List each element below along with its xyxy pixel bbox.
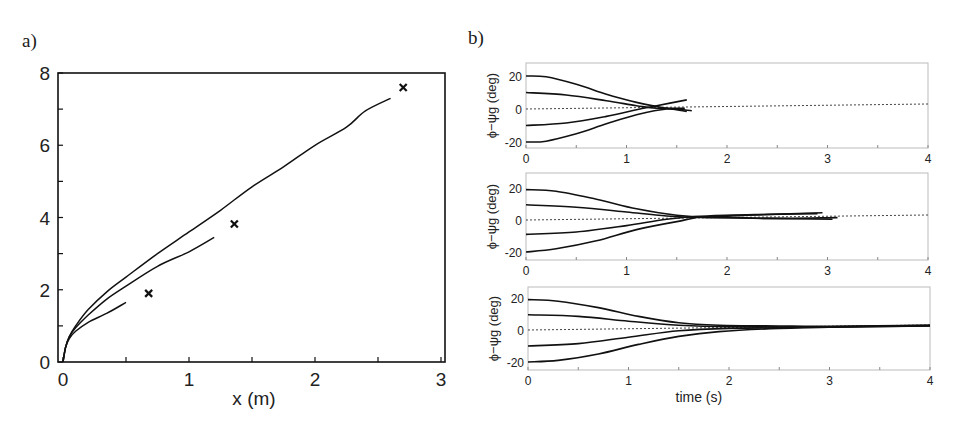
panel-b-subplot-1: 01234200-20ϕ−ψg (deg)	[484, 63, 932, 166]
y-tick-label: 20	[509, 182, 523, 196]
y-tick-label: -20	[507, 356, 525, 370]
y-axis-label: ϕ−ψg (deg)	[486, 296, 501, 361]
panel-a-frame	[58, 73, 445, 362]
y-tick-label: 0	[39, 352, 50, 373]
y-tick-label: 0	[515, 103, 522, 117]
y-tick-label: 8	[39, 63, 50, 84]
heading-error-line	[528, 300, 930, 327]
y-tick-label: 20	[511, 292, 525, 306]
x-tick-label: 0	[523, 152, 530, 166]
panel-b-subplot-3: 01234200-20ϕ−ψg (deg)time (s)	[486, 287, 934, 405]
x-axis-label: time (s)	[676, 389, 723, 405]
x-tick-label: 3	[436, 369, 447, 390]
zero-reference-line	[526, 104, 928, 109]
x-tick-label: 0	[523, 264, 530, 278]
x-tick-label: 3	[824, 264, 831, 278]
y-tick-label: 6	[39, 135, 50, 156]
y-tick-label: 20	[509, 70, 523, 84]
heading-error-line	[528, 326, 930, 362]
x-tick-label: 4	[927, 374, 934, 388]
heading-error-line	[526, 190, 823, 217]
heading-error-line	[526, 93, 685, 109]
x-tick-label: 1	[623, 264, 630, 278]
y-tick-label: -20	[505, 246, 523, 260]
x-tick-label: 2	[724, 152, 731, 166]
x-tick-label: 1	[184, 369, 195, 390]
x-tick-label: 0	[525, 374, 532, 388]
y-axis-label: ϕ−ψg (deg)	[484, 184, 499, 249]
panel-a-plot: 024680123x (m)	[39, 63, 446, 409]
x-tick-label: 2	[310, 369, 321, 390]
x-tick-label: 1	[625, 374, 632, 388]
trajectory-line	[63, 237, 214, 362]
target-marker	[145, 290, 152, 297]
x-tick-label: 4	[925, 152, 932, 166]
x-axis-label: x (m)	[232, 388, 275, 409]
y-tick-label: 0	[515, 214, 522, 228]
target-marker	[231, 221, 238, 228]
x-tick-label: 4	[925, 264, 932, 278]
y-tick-label: 2	[39, 280, 50, 301]
y-tick-label: 4	[39, 208, 50, 229]
heading-error-line	[526, 217, 838, 252]
figure-canvas: 024680123x (m)01234200-20ϕ−ψg (deg)01234…	[0, 0, 958, 429]
x-tick-label: 0	[58, 369, 69, 390]
trajectory-line	[63, 98, 391, 362]
x-tick-label: 2	[724, 264, 731, 278]
x-tick-label: 3	[826, 374, 833, 388]
x-tick-label: 2	[726, 374, 733, 388]
x-tick-label: 3	[824, 152, 831, 166]
y-tick-label: -20	[505, 136, 523, 150]
x-tick-label: 1	[623, 152, 630, 166]
heading-error-line	[526, 109, 692, 142]
panel-b-subplot-2: 01234200-20ϕ−ψg (deg)	[484, 173, 932, 278]
target-marker	[400, 84, 407, 91]
subplot-frame	[526, 63, 928, 148]
y-tick-label: 0	[517, 324, 524, 338]
heading-error-line	[526, 100, 687, 126]
y-axis-label: ϕ−ψg (deg)	[484, 73, 499, 138]
